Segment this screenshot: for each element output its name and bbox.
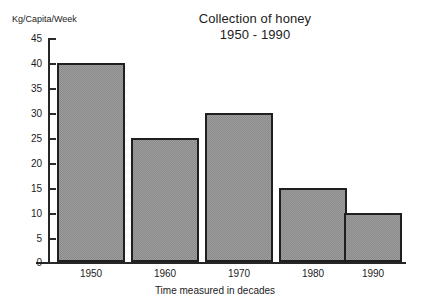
x-axis-tick-label-1970: 1970 bbox=[204, 268, 274, 279]
y-axis-tick bbox=[50, 88, 56, 90]
x-axis-tick-label-1950: 1950 bbox=[56, 268, 126, 279]
y-axis-tick-label: 10 bbox=[6, 208, 42, 219]
bar-1960 bbox=[131, 138, 199, 262]
plot-area: 45 40 35 30 25 20 15 10 5 0 1950 1960 19… bbox=[0, 0, 430, 304]
bar-1980 bbox=[279, 188, 347, 262]
y-axis-line bbox=[48, 38, 50, 264]
y-axis-tick-label: 15 bbox=[6, 183, 42, 194]
x-axis-tick-label-1960: 1960 bbox=[130, 268, 200, 279]
x-axis-line bbox=[36, 262, 406, 264]
y-axis-tick-label: 0 bbox=[6, 257, 42, 268]
y-axis-tick-label: 45 bbox=[6, 33, 42, 44]
y-axis-tick-label: 35 bbox=[6, 83, 42, 94]
x-axis-tick-label-1990: 1990 bbox=[338, 268, 408, 279]
x-axis-label: Time measured in decades bbox=[0, 285, 430, 296]
y-axis-tick-label: 20 bbox=[6, 158, 42, 169]
y-axis-tick-label: 5 bbox=[6, 233, 42, 244]
bar-chart-figure: Collection of honey 1950 - 1990 Kg/Capit… bbox=[0, 0, 430, 304]
bar-1990 bbox=[344, 213, 402, 262]
bar-1950 bbox=[57, 63, 125, 262]
y-axis-tick bbox=[50, 138, 56, 140]
y-axis-tick-label: 30 bbox=[6, 108, 42, 119]
y-axis-tick bbox=[50, 38, 56, 40]
y-axis-tick bbox=[50, 213, 56, 215]
y-axis-tick bbox=[50, 113, 56, 115]
y-axis-tick bbox=[50, 163, 56, 165]
y-axis-tick bbox=[50, 262, 56, 264]
y-axis-tick-label: 40 bbox=[6, 58, 42, 69]
y-axis-tick bbox=[50, 188, 56, 190]
bar-1970 bbox=[205, 113, 273, 262]
y-axis-tick bbox=[50, 63, 56, 65]
y-axis-tick-label: 25 bbox=[6, 133, 42, 144]
y-axis-tick bbox=[50, 238, 56, 240]
